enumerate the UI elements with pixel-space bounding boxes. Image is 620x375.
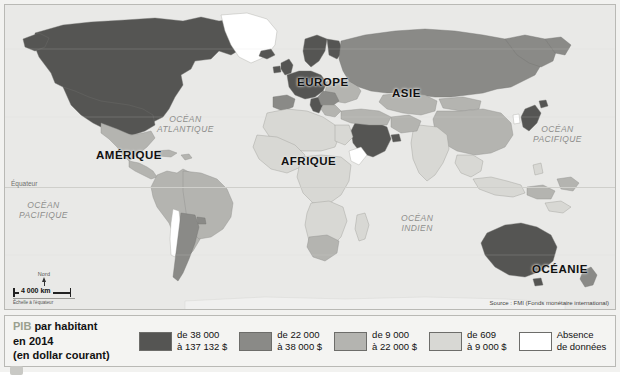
legend-item-class-4: de 609 à 9 000 $ (429, 329, 507, 353)
corner-badge (10, 366, 23, 375)
legend-item-class-5: Absence de données (519, 329, 607, 353)
scale-tick-right (70, 288, 72, 297)
legend-label-line-1: Absence (557, 329, 607, 341)
legend-label-line-1: de 22 000 (277, 329, 322, 341)
legend-item-class-2: de 22 000 à 38 000 $ (239, 329, 322, 353)
label-ocean-pacifique-ouest: OCÉAN PACIFIQUE (19, 201, 68, 220)
legend-title-line-2: en 2014 (13, 334, 139, 349)
legend-item-class-3: de 9 000 à 22 000 $ (334, 329, 417, 353)
scale-tick-left (13, 288, 15, 297)
legend-swatch-class-3 (334, 332, 367, 351)
legend-swatch-no-data (519, 332, 552, 351)
label-ocean-indien: OCÉAN INDIEN (401, 214, 433, 233)
north-arrow-stem (44, 282, 45, 286)
legend-label-line-1: de 38 000 (177, 329, 227, 341)
ocean-line-2: PACIFIQUE (19, 211, 68, 221)
legend-title: PIB par habitant en 2014 (en dollar cour… (13, 319, 139, 363)
legend-label-class-1: de 38 000 à 137 132 $ (177, 329, 227, 353)
legend-label-class-3: de 9 000 à 22 000 $ (372, 329, 417, 353)
source-credit: Source : FMI (Fonds monétaire internatio… (490, 300, 609, 306)
legend-swatch-class-2 (239, 332, 272, 351)
equator-line (5, 187, 616, 188)
legend-classes: de 38 000 à 137 132 $ de 22 000 à 38 000… (139, 329, 618, 353)
legend-label-line-1: de 609 (467, 329, 507, 341)
legend-title-accent: PIB (13, 320, 31, 332)
label-ocean-atlantique: OCÉAN ATLANTIQUE (157, 115, 214, 134)
legend-item-class-1: de 38 000 à 137 132 $ (139, 329, 227, 353)
north-label: Nord (13, 271, 75, 277)
scale-note: Échelle à l'équateur (13, 298, 75, 305)
legend-swatch-class-4 (429, 332, 462, 351)
legend-swatch-class-1 (139, 332, 172, 351)
legend: PIB par habitant en 2014 (en dollar cour… (4, 315, 616, 367)
label-europe: EUROPE (297, 76, 349, 88)
legend-label-line-2: à 22 000 $ (372, 341, 417, 353)
scale-bar: 4 000 km (13, 288, 75, 297)
legend-label-line-2: à 137 132 $ (177, 341, 227, 353)
legend-title-rest: par habitant (31, 320, 97, 332)
equator-label: Équateur (11, 180, 37, 187)
legend-label-no-data: Absence de données (557, 329, 607, 353)
scale-value: 4 000 km (19, 287, 53, 294)
legend-label-line-2: de données (557, 341, 607, 353)
legend-title-line-3: (en dollar courant) (13, 348, 139, 363)
legend-label-line-1: de 9 000 (372, 329, 417, 341)
ocean-line-2: ATLANTIQUE (157, 125, 214, 135)
legend-label-class-4: de 609 à 9 000 $ (467, 329, 507, 353)
legend-label-class-2: de 22 000 à 38 000 $ (277, 329, 322, 353)
label-asie: ASIE (392, 87, 421, 99)
legend-title-line-1: PIB par habitant (13, 319, 139, 334)
label-oceanie: OCÉANIE (532, 263, 588, 275)
ocean-line-2: INDIEN (401, 224, 433, 234)
ocean-line-2: PACIFIQUE (533, 135, 582, 145)
legend-label-line-2: à 38 000 $ (277, 341, 322, 353)
scale-and-north: Nord 4 000 km Échelle à l'équateur (13, 271, 75, 305)
world-map: .c1{fill:#555553;stroke:#6f6f6c;stroke-w… (4, 4, 616, 310)
label-afrique: AFRIQUE (281, 155, 336, 167)
label-ocean-pacifique-est: OCÉAN PACIFIQUE (533, 125, 582, 144)
legend-label-line-2: à 9 000 $ (467, 341, 507, 353)
label-amerique: AMÉRIQUE (96, 149, 162, 161)
